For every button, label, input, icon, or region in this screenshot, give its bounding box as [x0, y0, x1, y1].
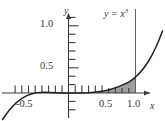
y-axis-label: y	[64, 6, 68, 16]
y-tick-label-1-0: 1.0	[40, 19, 53, 30]
y-axis-ticks	[69, 17, 79, 109]
equation-label-exponent: 3	[125, 7, 129, 15]
x-tick-label-1-0: 1.0	[127, 99, 140, 110]
figure-container: 1.0 0.5 0.5 1.0 -0.5 y x y = x3	[0, 0, 165, 121]
x-axis-arrowhead	[144, 90, 150, 95]
x-axis-label: x	[150, 101, 154, 111]
equation-label: y = x3	[104, 9, 128, 19]
y-tick-label-0-5: 0.5	[40, 61, 53, 72]
equation-label-base: y = x	[104, 8, 125, 19]
x-tick-label-0-5: 0.5	[99, 99, 112, 110]
x-tick-label-neg-0-5: -0.5	[16, 99, 33, 110]
